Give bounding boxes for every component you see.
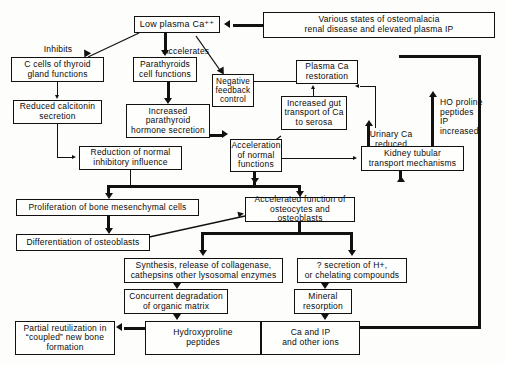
edge-parathyroids-to-pth xyxy=(167,82,170,98)
edge-kidney-hoproline-up xyxy=(431,97,434,146)
node-label: Proliferation of bone mesenchymal cells xyxy=(28,203,186,213)
edge-ccells-to-calcitonin xyxy=(57,82,58,95)
node-reduction-inhibitory: Reduction of normal inhibitory influence xyxy=(79,146,182,170)
node-label: Increased parathyroid hormone secretion xyxy=(131,107,205,136)
node-label: Parathyroids cell functions xyxy=(139,60,191,79)
node-partial-reutilization: Partial reutilization in “coupled” new b… xyxy=(15,321,115,355)
node-accelerated-function: Accelerated function of osteocytes and o… xyxy=(245,197,355,222)
node-reduced-calcitonin: Reduced calcitonin secretion xyxy=(13,100,102,124)
edge-calcitonin-drop xyxy=(57,124,58,158)
arrowhead-up-small xyxy=(311,85,315,89)
node-kidney-tubular: Kidney tubular transport mechanisms xyxy=(361,146,464,171)
node-increased-pth: Increased parathyroid hormone secretion xyxy=(126,104,210,138)
edge-calcitonin-across xyxy=(57,157,72,158)
node-label: Synthesis, release of collagenase, cathe… xyxy=(131,261,277,280)
node-label: Acceleration of normal functions xyxy=(231,141,280,170)
edge-acceleration-to-kidney xyxy=(282,158,353,159)
node-label: Ca and IP and other ions xyxy=(282,328,339,347)
arrowhead-right-small xyxy=(72,155,76,159)
edge-negfeedback-to-plasmaca xyxy=(254,81,296,82)
arrowhead-left xyxy=(116,323,122,331)
node-various-states: Various states of osteomalacia renal dis… xyxy=(263,12,495,38)
node-synthesis-release: Synthesis, release of collagenase, cathe… xyxy=(124,258,283,283)
arrowhead-diagonal-accelerated xyxy=(237,210,244,217)
node-label: Kidney tubular transport mechanisms xyxy=(369,149,457,168)
edge-right-margin-top xyxy=(399,55,479,58)
edge-variousstates-to-lowplasma xyxy=(233,24,264,27)
edge-gut-to-plasmaca xyxy=(313,89,314,96)
node-plasma-ca-restoration: Plasma Ca restoration xyxy=(296,60,358,84)
node-label: Reduction of normal inhibitory influence xyxy=(91,148,171,167)
label-inhibits: Inhibits xyxy=(28,35,88,55)
arrowhead-up xyxy=(397,176,405,182)
node-label: Mineral resorption xyxy=(303,292,343,311)
arrowhead-left-small xyxy=(355,84,359,88)
arrowhead-right-small xyxy=(353,156,357,160)
node-secretion-h-chelating: ? secretion of H+, or chelating compound… xyxy=(297,258,407,283)
label-ho-proline: HO proline peptides IP increased xyxy=(440,88,502,137)
edge-proliferation-to-differentiation xyxy=(107,216,110,228)
label-accelerates: Accelerates xyxy=(150,37,222,57)
label-text: Urinary Ca reduced xyxy=(370,129,413,149)
arrowhead-down xyxy=(321,314,329,320)
edge-reduction-down xyxy=(130,170,131,185)
node-differentiation-osteoblasts: Differentiation of osteoblasts xyxy=(16,234,150,251)
node-label: Partial reutilization in “coupled” new b… xyxy=(23,324,106,353)
edge-kidney-return-h xyxy=(360,86,376,87)
arrowhead-down xyxy=(199,250,207,256)
node-label: Accelerated function of osteocytes and o… xyxy=(248,195,352,224)
arrowhead-left xyxy=(224,20,230,28)
label-text: HO proline peptides IP increased xyxy=(440,97,483,136)
arrowhead-up xyxy=(429,91,437,97)
arrowhead-down xyxy=(348,250,356,256)
arrowhead-down-small xyxy=(55,95,59,99)
flowchart-canvas: Low plasma Ca⁺⁺ Various states of osteom… xyxy=(0,0,505,365)
node-label: ? secretion of H+, or chelating compound… xyxy=(305,261,400,280)
arrowhead-down xyxy=(251,178,259,184)
node-ca-ip-other-ions: Ca and IP and other ions xyxy=(261,321,360,355)
node-label: Hydroxyproline peptides xyxy=(173,328,233,347)
label-text: Inhibits xyxy=(44,44,73,54)
node-label: Reduced calcitonin secretion xyxy=(20,102,95,121)
arrowhead-down xyxy=(173,314,181,320)
node-label: Concurrent degradation of organic matrix xyxy=(129,292,223,311)
label-text: Accelerates xyxy=(163,46,210,56)
node-low-plasma-ca: Low plasma Ca⁺⁺ xyxy=(134,16,220,33)
edge-caip-right xyxy=(357,326,481,329)
label-urinary-ca-reduced: Urinary Ca reduced xyxy=(355,120,427,149)
node-increased-gut-transport: Increased gut transport of Ca to serosa xyxy=(281,96,347,130)
node-label: Negative feedback control xyxy=(216,77,251,105)
node-proliferation-mesenchymal: Proliferation of bone mesenchymal cells xyxy=(16,199,199,216)
node-label: Various states of osteomalacia renal dis… xyxy=(305,15,454,34)
node-label: Differentiation of osteoblasts xyxy=(26,238,139,248)
edge-accelerated-split xyxy=(201,232,353,235)
node-label: Increased gut transport of Ca to serosa xyxy=(284,99,343,128)
arrowhead-right xyxy=(222,130,228,138)
node-label: C cells of thyroid gland functions xyxy=(24,60,90,79)
node-label: Low plasma Ca⁺⁺ xyxy=(140,19,215,29)
node-parathyroids: Parathyroids cell functions xyxy=(133,57,197,82)
node-label: Plasma Ca restoration xyxy=(305,62,348,81)
node-hydroxyproline-peptides: Hydroxyproline peptides xyxy=(145,321,261,355)
edge-split-right-down xyxy=(350,232,353,250)
node-c-cells-thyroid: C cells of thyroid gland functions xyxy=(11,57,104,82)
node-concurrent-degradation: Concurrent degradation of organic matrix xyxy=(124,289,228,314)
node-acceleration-normal: Acceleration of normal functions xyxy=(230,139,282,172)
edge-split-left-down xyxy=(201,232,204,250)
node-mineral-resorption: Mineral resorption xyxy=(294,289,352,314)
edge-bus-horizontal xyxy=(107,185,301,188)
node-negative-feedback: Negative feedback control xyxy=(212,74,254,107)
